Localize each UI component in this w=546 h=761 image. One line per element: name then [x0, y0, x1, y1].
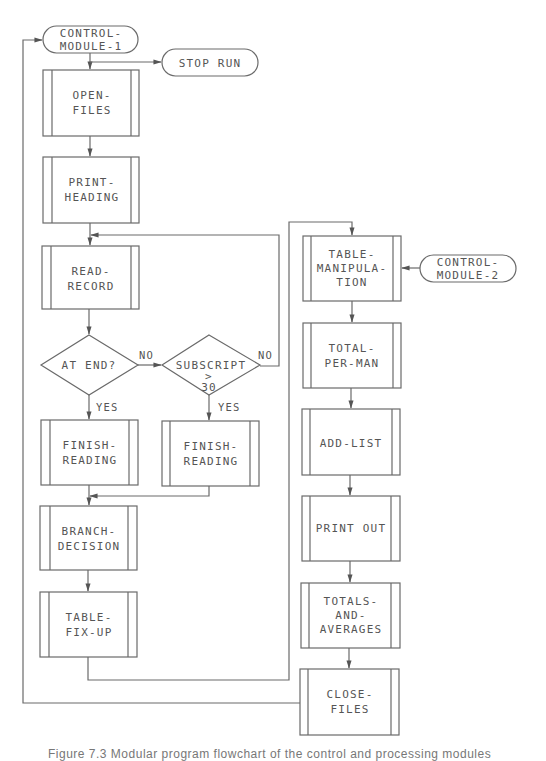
terminal-cm2-line2: MODULE-2 — [437, 269, 500, 282]
finish-reading-1-line2: READING — [63, 454, 118, 467]
table-fix-up-line1: TABLE- — [66, 611, 113, 624]
at-end-no-label: NO — [139, 349, 154, 361]
at-end-label: AT END? — [62, 359, 117, 372]
module-print-heading — [43, 157, 139, 223]
read-record-line2: RECORD — [68, 280, 115, 293]
subscript-no-loop — [91, 235, 279, 366]
table-fix-up-line2: FIX-UP — [66, 626, 113, 639]
totals-averages-line3: AVERAGES — [320, 623, 383, 636]
module-finish-reading-2 — [162, 421, 259, 486]
total-per-man-line2: PER-MAN — [325, 357, 380, 370]
subscript-yes-label: YES — [218, 401, 241, 413]
totals-averages-line1: TOTALS- — [324, 595, 379, 608]
branch-decision-line1: BRANCH- — [62, 525, 117, 538]
table-manipulation-line3: TION — [336, 276, 367, 289]
print-heading-line1: PRINT- — [69, 176, 116, 189]
finish-reading-1-line1: FINISH- — [63, 439, 118, 452]
total-per-man-line1: TOTAL- — [329, 342, 376, 355]
terminal-stop-label: STOP RUN — [179, 57, 242, 70]
module-table-fix-up — [40, 592, 137, 657]
at-end-yes-label: YES — [96, 401, 119, 413]
print-out-label: PRINT OUT — [316, 522, 386, 535]
add-list-label: ADD-LIST — [320, 437, 383, 450]
finish-reading-2-line1: FINISH- — [184, 440, 239, 453]
finish-reading-2-line2: READING — [184, 455, 239, 468]
terminal-cm1-line1: CONTROL- — [60, 27, 123, 40]
module-branch-decision — [40, 506, 137, 570]
totals-averages-line2: AND- — [335, 609, 366, 622]
subscript-line3: 30 — [201, 381, 217, 394]
connector — [90, 486, 209, 496]
branch-decision-line2: DECISION — [58, 540, 121, 553]
table-manipulation-line1: TABLE- — [329, 248, 376, 261]
close-files-line1: CLOSE- — [327, 688, 374, 701]
figure-caption: Figure 7.3 Modular program flowchart of … — [48, 747, 491, 761]
terminal-cm1-line2: MODULE-1 — [60, 40, 123, 53]
open-files-line1: OPEN- — [72, 89, 111, 102]
table-manipulation-line2: MANIPULA- — [317, 262, 387, 275]
close-files-line2: FILES — [330, 703, 369, 716]
module-close-files — [300, 669, 399, 735]
subscript-no-label: NO — [258, 349, 273, 361]
read-record-line1: READ- — [71, 265, 110, 278]
module-open-files — [43, 70, 139, 136]
open-files-line2: FILES — [72, 104, 111, 117]
terminal-cm2-line1: CONTROL- — [437, 256, 500, 269]
print-heading-line2: HEADING — [65, 191, 120, 204]
module-finish-reading-1 — [41, 420, 138, 485]
module-total-per-man — [303, 323, 401, 388]
